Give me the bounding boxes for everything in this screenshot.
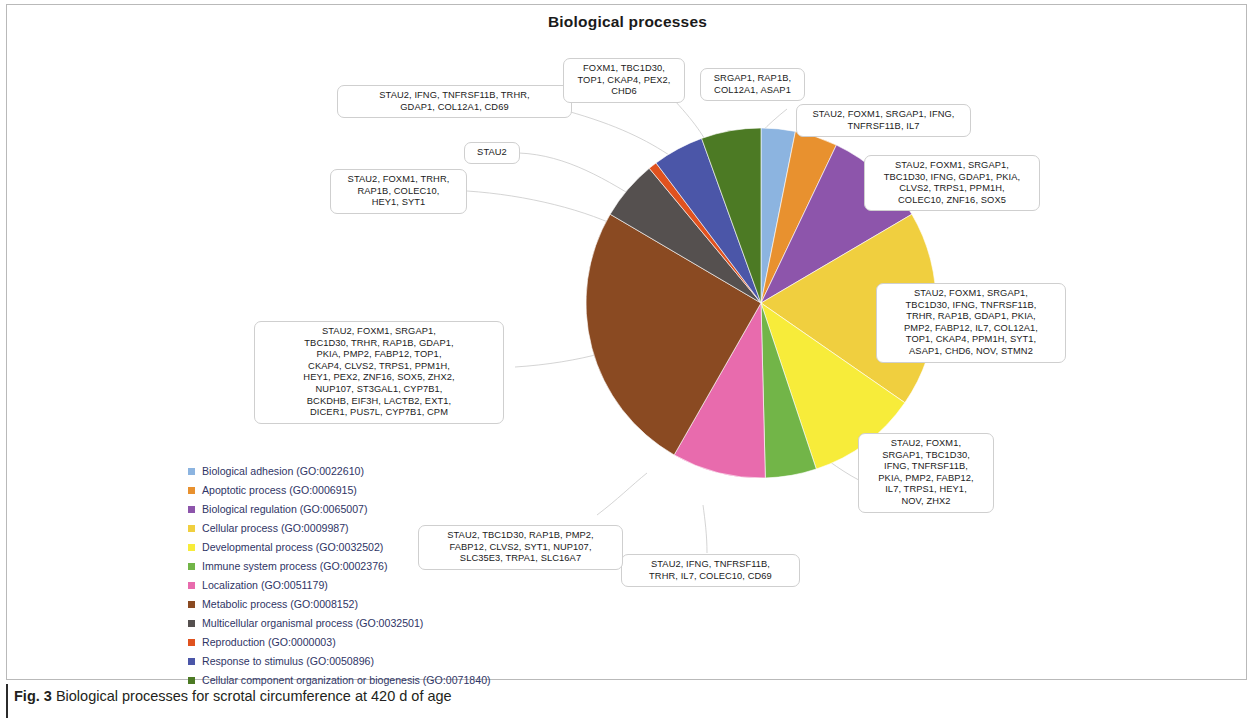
callout-metabolic-process: STAU2, FOXM1, SRGAP1,TBC1D30, TRHR, RAP1… [254, 321, 504, 424]
legend-label: Response to stimulus (GO:0050896) [202, 656, 374, 667]
callout-reproduction: STAU2 [464, 142, 520, 164]
legend-swatch [188, 563, 195, 570]
legend-label: Cellular process (GO:0009987) [202, 523, 349, 534]
caption-rule [6, 684, 8, 718]
legend-item: Developmental process (GO:0032502) [188, 538, 491, 557]
callout-cellular-component-organization: STAU2, IFNG, TNFRSF11B, TRHR,GDAP1, COL1… [337, 85, 572, 118]
legend-swatch [188, 677, 195, 684]
legend-swatch [188, 487, 195, 494]
legend-label: Apoptotic process (GO:0006915) [202, 485, 357, 496]
callout-developmental-process: STAU2, FOXM1,SRGAP1, TBC1D30,IFNG, TNFRS… [858, 433, 994, 513]
legend-item: Localization (GO:0051179) [188, 576, 491, 595]
legend-label: Metabolic process (GO:0008152) [202, 599, 358, 610]
callout-cellular-process: STAU2, FOXM1, SRGAP1,TBC1D30, IFNG, TNFR… [876, 283, 1066, 363]
legend-item: Biological regulation (GO:0065007) [188, 500, 491, 519]
legend-item: Apoptotic process (GO:0006915) [188, 481, 491, 500]
legend-label: Cellular component organization or bioge… [202, 675, 491, 686]
legend-swatch [188, 582, 195, 589]
caption-figure-number: Fig. 3 [14, 688, 52, 704]
legend-label: Biological adhesion (GO:0022610) [202, 466, 364, 477]
legend-label: Developmental process (GO:0032502) [202, 542, 383, 553]
legend-label: Localization (GO:0051179) [202, 580, 328, 591]
legend-label: Immune system process (GO:0002376) [202, 561, 387, 572]
figure-frame: Biological processes [6, 4, 1247, 680]
legend-swatch [188, 639, 195, 646]
legend-item: Multicellular organismal process (GO:003… [188, 614, 491, 633]
legend-label: Multicellular organismal process (GO:003… [202, 618, 423, 629]
legend-swatch [188, 506, 195, 513]
legend-item: Biological adhesion (GO:0022610) [188, 462, 491, 481]
legend-swatch [188, 468, 195, 475]
legend-item: Reproduction (GO:0000003) [188, 633, 491, 652]
legend-item: Response to stimulus (GO:0050896) [188, 652, 491, 671]
callout-response-to-stimulus: FOXM1, TBC1D30,TOP1, CKAP4, PEX2,CHD6 [563, 58, 685, 103]
legend-swatch [188, 544, 195, 551]
legend-swatch [188, 601, 195, 608]
callout-apoptotic-process: STAU2, FOXM1, SRGAP1, IFNG,TNFRSF11B, IL… [796, 104, 971, 137]
legend-swatch [188, 658, 195, 665]
callout-multicellular-organismal: STAU2, FOXM1, TRHR,RAP1B, COLEC10,HEY1, … [330, 169, 467, 214]
legend-item: Cellular process (GO:0009987) [188, 519, 491, 538]
chart-title: Biological processes [7, 13, 1248, 31]
legend: Biological adhesion (GO:0022610)Apoptoti… [188, 462, 491, 690]
legend-label: Reproduction (GO:0000003) [202, 637, 336, 648]
legend-item: Immune system process (GO:0002376) [188, 557, 491, 576]
legend-swatch [188, 525, 195, 532]
legend-label: Biological regulation (GO:0065007) [202, 504, 367, 515]
legend-item: Metabolic process (GO:0008152) [188, 595, 491, 614]
figure-caption: Fig. 3 Biological processes for scrotal … [14, 688, 1214, 704]
callout-biological-adhesion: SRGAP1, RAP1B,COL12A1, ASAP1 [700, 68, 805, 101]
legend-swatch [188, 620, 195, 627]
callout-biological-regulation: STAU2, FOXM1, SRGAP1,TBC1D30, IFNG, GDAP… [864, 155, 1040, 211]
caption-text: Biological processes for scrotal circumf… [52, 688, 452, 704]
callout-immune-system-process: STAU2, IFNG, TNFRSF11B,TRHR, IL7, COLEC1… [621, 554, 800, 587]
